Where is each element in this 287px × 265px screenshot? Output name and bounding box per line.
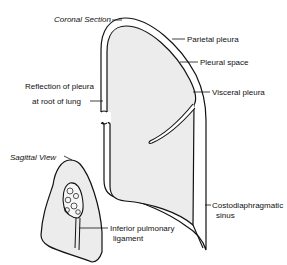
coronal-section-title: Coronal Section	[54, 15, 111, 24]
costodiaphragmatic-label-line1: Costodiaphragmatic	[212, 201, 283, 210]
parietal-pleura-label: Parietal pleura	[187, 35, 239, 44]
pleural-space-label: Pleural space	[200, 58, 248, 67]
ligament-label-line1: Inferior pulmonary	[110, 224, 174, 233]
sagittal-view-title: Sagittal View	[10, 153, 56, 162]
reflection-label-line1: Reflection of pleura	[25, 82, 94, 91]
costodiaphragmatic-label-line2: sinus	[216, 211, 235, 220]
visceral-pleura-label: Visceral pleura	[212, 88, 265, 97]
ligament-label-line2: ligament	[113, 234, 143, 243]
reflection-label-line2: at root of lung	[32, 97, 81, 106]
